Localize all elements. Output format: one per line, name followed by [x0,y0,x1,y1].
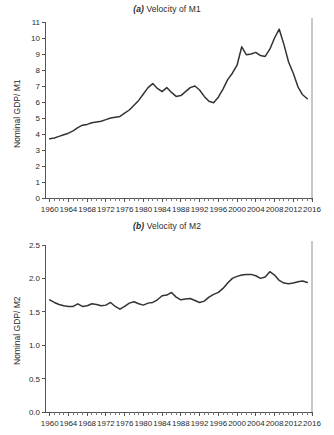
x-tick-label-m1: 1960 [41,205,59,214]
x-tick-label-m2: 2008 [266,419,284,428]
y-tick-label-m2: 2.0 [29,274,41,283]
x-tick-label-m1: 2000 [228,205,246,214]
x-tick-label-m1: 1992 [191,205,209,214]
y-tick-label-m1: 0 [36,194,41,203]
chart-panel-m1: (a) Velocity of M1 Nominal GDP/ M1 01234… [0,0,334,218]
x-tick-label-m1: 1976 [116,205,134,214]
x-tick-label-m1: 1980 [134,205,152,214]
x-tick-label-m2: 1992 [191,419,209,428]
y-tick-label-m1: 1 [36,178,41,187]
x-tick-label-m2: 1976 [116,419,134,428]
y-tick-label-m1: 11 [32,18,41,27]
x-tick-label-m2: 2016 [303,419,321,428]
y-tick-label-m2: 0.5 [29,375,41,384]
x-tick-label-m1: 2004 [247,205,265,214]
y-tick-label-m2: 1.5 [29,308,41,317]
y-tick-label-m1: 4 [36,130,41,139]
x-tick-label-m2: 2000 [228,419,246,428]
x-tick-label-m1: 1964 [60,205,78,214]
x-tick-label-m1: 2016 [303,205,321,214]
y-tick-label-m1: 9 [36,50,41,59]
x-tick-label-m2: 1960 [41,419,59,428]
series-line-m2 [50,272,308,309]
x-tick-label-m1: 1984 [153,205,171,214]
x-tick-label-m1: 2008 [266,205,284,214]
y-tick-label-m2: 1.0 [29,341,41,350]
y-tick-label-m2: 2.5 [29,241,41,250]
x-tick-label-m2: 1988 [172,419,190,428]
plot-area-m1: 0123456789101119601964196819721976198019… [0,0,334,218]
x-tick-label-m2: 1984 [153,419,171,428]
y-tick-label-m1: 6 [36,98,41,107]
x-tick-label-m1: 1972 [97,205,115,214]
x-tick-label-m2: 1996 [209,419,227,428]
x-tick-label-m2: 2012 [284,419,302,428]
x-tick-label-m1: 2012 [284,205,302,214]
chart-panel-m2: (b) Velocity of M2 Nominal GDP/ M2 0.00.… [0,217,334,435]
y-tick-label-m1: 7 [36,82,41,91]
y-tick-label-m2: 0.0 [29,408,41,417]
y-tick-label-m1: 8 [36,66,41,75]
x-tick-label-m2: 1964 [60,419,78,428]
y-tick-label-m1: 3 [36,146,41,155]
y-tick-label-m1: 10 [31,34,40,43]
x-tick-label-m2: 1980 [134,419,152,428]
x-tick-label-m2: 1972 [97,419,115,428]
series-line-m1 [50,29,308,139]
x-tick-label-m2: 1968 [78,419,96,428]
x-tick-label-m1: 1996 [209,205,227,214]
x-tick-label-m1: 1968 [78,205,96,214]
plot-area-m2: 0.00.51.01.52.02.51960196419681972197619… [0,217,334,435]
x-tick-label-m2: 2004 [247,419,265,428]
x-tick-label-m1: 1988 [172,205,190,214]
y-tick-label-m1: 5 [36,114,41,123]
y-tick-label-m1: 2 [36,162,41,171]
